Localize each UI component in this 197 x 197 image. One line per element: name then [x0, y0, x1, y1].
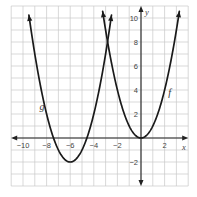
x-tick-label: −4: [90, 141, 99, 150]
function-label-g: g: [40, 101, 45, 112]
y-axis-label: y: [144, 7, 149, 17]
grid: [11, 6, 188, 186]
axes: [11, 6, 188, 186]
x-axis-right-arrow-icon: [182, 136, 188, 141]
curves: [27, 11, 181, 162]
function-label-f: f: [168, 87, 172, 98]
x-tick-label: −10: [17, 141, 30, 150]
coordinate-plane: −10−8−6−4−22108642−2 x y g f: [0, 0, 197, 197]
y-axis-down-arrow-icon: [139, 180, 144, 186]
x-tick-label: 2: [163, 141, 167, 150]
x-tick-label: −2: [113, 141, 122, 150]
y-tick-label: 8: [134, 38, 138, 47]
x-tick-label: −6: [66, 141, 75, 150]
x-axis-left-arrow-icon: [11, 136, 17, 141]
x-axis-label: x: [181, 142, 186, 152]
y-axis-up-arrow-icon: [139, 6, 144, 12]
y-tick-label: −2: [129, 158, 138, 167]
x-tick-label: −8: [42, 141, 51, 150]
y-tick-label: 2: [134, 110, 138, 119]
y-tick-label: 6: [134, 62, 138, 71]
y-tick-label: 10: [130, 14, 138, 23]
y-tick-label: 4: [134, 86, 138, 95]
